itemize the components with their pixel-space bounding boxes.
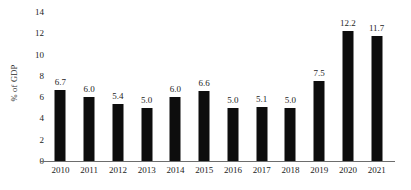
x-axis-line — [40, 161, 395, 162]
x-axis-tick-label: 2014 — [166, 165, 184, 175]
bar-value-label: 5.0 — [227, 96, 238, 105]
bar — [256, 107, 267, 161]
y-axis-tick-label: 2 — [26, 135, 44, 144]
bar-value-label: 5.0 — [285, 96, 296, 105]
bar-value-label: 6.0 — [170, 85, 181, 94]
bar-value-label: 5.4 — [112, 92, 123, 101]
bar-chart: % of GDP 02468101214 6.76.05.45.06.06.65… — [0, 0, 411, 190]
bar-value-label: 12.2 — [340, 19, 356, 28]
bar — [314, 81, 325, 161]
x-axis-tick-label: 2021 — [368, 165, 386, 175]
bar-series: 6.76.05.45.06.06.65.05.15.07.512.211.7 — [46, 0, 391, 161]
bar — [141, 108, 152, 161]
bar-group: 6.0 — [161, 0, 190, 161]
x-axis-tick-label: 2011 — [80, 165, 98, 175]
bar — [170, 97, 181, 161]
y-axis-tick-label: 14 — [26, 8, 44, 17]
bar — [342, 31, 353, 161]
y-axis-tick-labels: 02468101214 — [26, 0, 44, 170]
x-axis-tick-label: 2018 — [281, 165, 299, 175]
y-axis-tick-label: 12 — [26, 29, 44, 38]
bar — [285, 108, 296, 161]
x-axis-tick-label: 2017 — [253, 165, 271, 175]
x-axis-tick-label: 2020 — [339, 165, 357, 175]
bar-group: 5.0 — [132, 0, 161, 161]
bar — [55, 90, 66, 161]
bar-value-label: 6.0 — [84, 85, 95, 94]
bar-value-label: 5.0 — [141, 96, 152, 105]
x-axis-tick-label: 2015 — [195, 165, 213, 175]
x-axis-tick-label: 2013 — [138, 165, 156, 175]
x-axis-tick-label: 2012 — [109, 165, 127, 175]
bar-group: 12.2 — [334, 0, 363, 161]
bar-group: 5.4 — [104, 0, 133, 161]
bar-group: 5.0 — [276, 0, 305, 161]
bar-group: 6.0 — [75, 0, 104, 161]
bar-group: 7.5 — [305, 0, 334, 161]
bar-group: 6.7 — [46, 0, 75, 161]
x-axis-tick-label: 2019 — [310, 165, 328, 175]
bar-group: 5.0 — [219, 0, 248, 161]
y-axis-tick-label: 4 — [26, 114, 44, 123]
bar-value-label: 6.6 — [199, 79, 210, 88]
y-axis-tick-label: 10 — [26, 50, 44, 59]
y-axis-tick-label: 8 — [26, 71, 44, 80]
bar — [112, 104, 123, 161]
y-axis-tick-label: 6 — [26, 93, 44, 102]
bar — [84, 97, 95, 161]
x-axis-tick-label: 2016 — [224, 165, 242, 175]
bar-value-label: 6.7 — [55, 78, 66, 87]
bar — [227, 108, 238, 161]
y-axis-title-text: % of GDP — [8, 64, 18, 101]
bar-group: 6.6 — [190, 0, 219, 161]
bar-value-label: 7.5 — [314, 69, 325, 78]
x-axis-tick-label: 2010 — [51, 165, 69, 175]
bar-value-label: 11.7 — [369, 24, 384, 33]
bar-group: 5.1 — [247, 0, 276, 161]
bar-value-label: 5.1 — [256, 95, 267, 104]
y-axis-title: % of GDP — [0, 0, 26, 165]
bar-group: 11.7 — [362, 0, 391, 161]
bar — [199, 91, 210, 161]
bar — [371, 36, 382, 161]
x-axis-tick-labels: 2010201120122013201420152016201720182019… — [46, 165, 391, 179]
